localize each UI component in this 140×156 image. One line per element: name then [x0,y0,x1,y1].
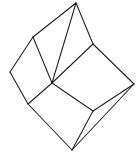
edge-lowerleft-bottom [28,104,72,150]
edge-right-bottom [72,84,134,150]
edge-upperright-right [93,44,134,84]
edge-top-upperright [76,3,93,44]
edge-left-lowerleft [10,72,28,104]
cube-edge-group [10,3,134,150]
edge-upperleft-left [10,37,33,72]
wireframe-cube-drawing: Wireframe cube [0,0,140,156]
edge-centerfront-lowerleft [28,83,52,104]
edge-top-upperleft [33,3,76,37]
edge-upperleft-centerfront [33,37,52,83]
edge-right-lowerright [93,84,134,111]
edge-centerfront-lowerright [52,83,93,111]
figure-canvas: Wireframe cube [0,0,140,156]
